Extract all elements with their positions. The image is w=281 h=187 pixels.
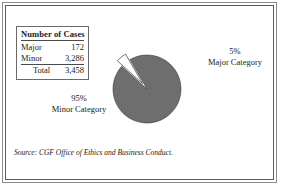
row-value-minor: 3,286 bbox=[54, 53, 84, 65]
minor-percent: 95% bbox=[30, 93, 128, 104]
pie-chart-svg bbox=[104, 38, 196, 130]
pie-chart bbox=[104, 38, 196, 130]
major-name: Major Category bbox=[198, 57, 272, 68]
row-value-major: 172 bbox=[54, 42, 84, 53]
table-row-major: Major 172 bbox=[21, 42, 84, 53]
row-label-major: Major bbox=[21, 42, 54, 53]
row-value-total: 3,458 bbox=[54, 65, 84, 77]
table-row-total: Total 3,458 bbox=[21, 65, 84, 77]
pie-chart-figure: Number of Cases Major 172 Minor 3,286 To… bbox=[0, 0, 281, 187]
table-title: Number of Cases bbox=[21, 29, 84, 41]
major-percent: 5% bbox=[198, 46, 272, 57]
number-of-cases-table: Number of Cases Major 172 Minor 3,286 To… bbox=[16, 26, 89, 80]
minor-category-callout: 95% Minor Category bbox=[30, 93, 128, 115]
major-category-callout: 5% Major Category bbox=[198, 46, 272, 68]
row-label-total: Total bbox=[21, 65, 54, 77]
cases-table: Major 172 Minor 3,286 Total 3,458 bbox=[21, 42, 84, 76]
minor-name: Minor Category bbox=[30, 104, 128, 115]
source-note: Source: CGF Office of Ethics and Busines… bbox=[14, 148, 173, 157]
table-row-minor: Minor 3,286 bbox=[21, 53, 84, 65]
row-label-minor: Minor bbox=[21, 53, 54, 65]
